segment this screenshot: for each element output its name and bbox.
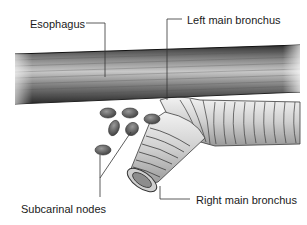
diagram-illustration [0,0,307,225]
label-left-main-bronchus: Left main bronchus [187,14,281,26]
label-right-main-bronchus: Right main bronchus [196,194,297,206]
esophagus-shape [15,45,300,104]
label-subcarinal-nodes: Subcarinal nodes [21,203,106,215]
anatomy-diagram: Esophagus Left main bronchus Subcarinal … [0,0,307,225]
label-esophagus: Esophagus [30,18,85,30]
